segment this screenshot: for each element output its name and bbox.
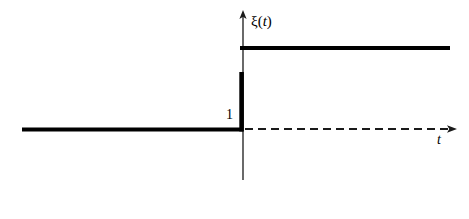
x-axis-arrow-icon xyxy=(447,125,457,133)
y-axis-label-symbol: ξ xyxy=(251,13,258,29)
y-axis-label-paren-close: ) xyxy=(267,13,272,29)
y-axis-label: ξ(t) xyxy=(251,14,272,29)
unit-level-label: 1 xyxy=(226,108,233,122)
plot-canvas xyxy=(0,0,469,219)
x-axis-label: t xyxy=(437,133,441,147)
step-function-curve xyxy=(22,48,450,132)
x-axis-group xyxy=(245,125,457,133)
step-function-figure: ξ(t) 1 t xyxy=(0,0,469,219)
